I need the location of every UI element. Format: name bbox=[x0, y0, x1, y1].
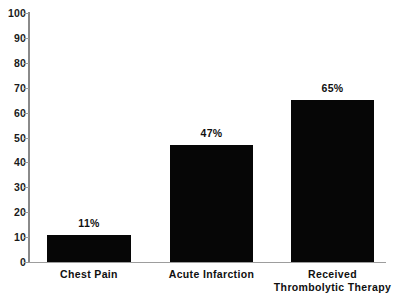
y-axis-tick-mark bbox=[24, 113, 29, 114]
bar-value-label: 65% bbox=[291, 83, 374, 94]
y-axis-tick-label: 60 bbox=[0, 108, 26, 118]
y-axis-tick-label: 100 bbox=[0, 8, 26, 18]
x-axis-line bbox=[28, 262, 386, 263]
bar bbox=[291, 100, 374, 262]
y-axis-tick-label: 70 bbox=[0, 83, 26, 93]
y-axis-tick-label: 30 bbox=[0, 182, 26, 192]
y-axis-tick-label: 10 bbox=[0, 232, 26, 242]
y-axis-tick-mark bbox=[24, 262, 29, 263]
y-axis-tick-label: 20 bbox=[0, 207, 26, 217]
y-axis-tick-mark bbox=[24, 162, 29, 163]
plot-area: 11%Chest Pain47%Acute Infarction65%Recei… bbox=[0, 0, 405, 298]
y-axis-tick-label: 0 bbox=[0, 257, 26, 267]
bar bbox=[47, 235, 131, 262]
x-axis-category-label: Received Thrombolytic Therapy bbox=[269, 268, 396, 294]
x-axis-category-label: Chest Pain bbox=[25, 268, 153, 281]
bar-value-label: 47% bbox=[170, 128, 253, 139]
bar-chart: 0102030405060708090100 11%Chest Pain47%A… bbox=[0, 0, 405, 298]
bar bbox=[170, 145, 253, 262]
y-axis-tick-mark bbox=[24, 138, 29, 139]
y-axis-tick-label: 90 bbox=[0, 33, 26, 43]
y-axis-tick-mark bbox=[24, 187, 29, 188]
y-axis-tick-mark bbox=[24, 237, 29, 238]
y-axis-tick-label: 50 bbox=[0, 133, 26, 143]
y-axis-tick-mark bbox=[24, 38, 29, 39]
x-axis-category-label: Acute Infarction bbox=[148, 268, 275, 281]
y-axis-tick-mark bbox=[24, 88, 29, 89]
y-axis-tick-mark bbox=[24, 63, 29, 64]
y-axis-tick-label: 40 bbox=[0, 157, 26, 167]
y-axis-tick-label: 80 bbox=[0, 58, 26, 68]
y-axis-tick-mark bbox=[24, 13, 29, 14]
bar-value-label: 11% bbox=[47, 218, 131, 229]
y-axis-tick-mark bbox=[24, 212, 29, 213]
